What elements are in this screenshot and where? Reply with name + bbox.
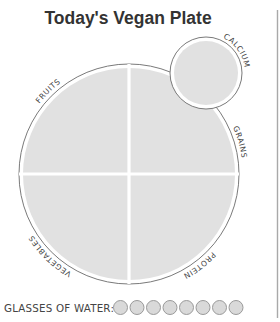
water-glass-6[interactable] <box>196 301 210 315</box>
water-glass-7[interactable] <box>213 301 227 315</box>
water-glasses <box>114 301 244 315</box>
vegan-plate-worksheet: Today's Vegan Plate FRUITS GRAINS PROTEI… <box>0 0 280 322</box>
water-glass-5[interactable] <box>180 301 194 315</box>
water-glass-3[interactable] <box>147 301 161 315</box>
water-label: GLASSES OF WATER: <box>4 302 114 314</box>
water-glass-4[interactable] <box>163 301 177 315</box>
section-fruits[interactable] <box>23 68 129 174</box>
section-protein[interactable] <box>129 174 235 280</box>
water-glass-8[interactable] <box>229 301 243 315</box>
water-glass-2[interactable] <box>130 301 144 315</box>
water-glass-1[interactable] <box>114 301 128 315</box>
calcium-surface[interactable] <box>174 41 238 105</box>
section-vegetables[interactable] <box>23 174 129 280</box>
calcium-dish[interactable] <box>170 37 242 109</box>
page-title: Today's Vegan Plate <box>44 8 212 28</box>
